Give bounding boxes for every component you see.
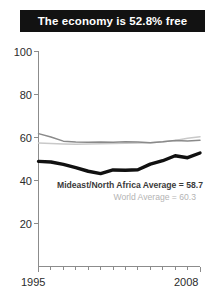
- chart-title-banner: The economy is 52.8% free: [20, 10, 205, 32]
- series-line-country-score: [39, 153, 201, 174]
- y-tick-label-80: 80: [20, 89, 32, 101]
- page-title: The economy is 52.8% free: [38, 15, 188, 27]
- y-tick-label-20: 20: [20, 218, 32, 230]
- series-line-region-average: [39, 134, 201, 143]
- y-axis-ticks: [34, 52, 39, 224]
- y-tick-label-40: 40: [20, 175, 32, 187]
- y-tick-label-60: 60: [20, 132, 32, 144]
- x-tick-label-end: 2008: [174, 276, 198, 288]
- plot-area: 100 80 60 40 20 Mideast/North Africa Ave…: [0, 38, 217, 299]
- y-axis-labels: 100 80 60 40 20: [14, 46, 32, 230]
- x-tick-label-start: 1995: [21, 276, 45, 288]
- y-tick-label-100: 100: [14, 46, 32, 58]
- annotation-world-average: World Average = 60.3: [113, 192, 196, 202]
- chart-svg: 100 80 60 40 20 Mideast/North Africa Ave…: [0, 38, 217, 299]
- annotation-region-average: Mideast/North Africa Average = 58.7: [57, 180, 203, 190]
- x-axis-ticks: [39, 267, 201, 272]
- economic-freedom-chart-card: The economy is 52.8% free 100 80 60 40 2…: [0, 0, 217, 299]
